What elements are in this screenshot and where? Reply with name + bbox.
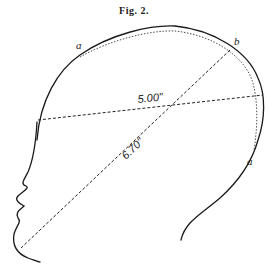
measurement-diagonal: 6.70": [119, 134, 146, 161]
label-b: b: [234, 35, 240, 47]
head-measurement-diagram: Fig. 2. a b a 5.00" 6.70": [0, 0, 269, 268]
skull-outer-contour: [37, 26, 264, 240]
label-a-top: a: [76, 39, 82, 51]
skull-inner-contour: [80, 31, 257, 150]
label-a-right: a: [247, 155, 253, 167]
measurement-horizontal: 5.00": [137, 90, 165, 105]
face-profile: [14, 122, 40, 262]
figure-title: Fig. 2.: [119, 5, 149, 16]
